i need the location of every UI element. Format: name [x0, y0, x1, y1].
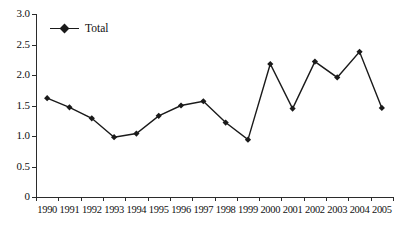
legend-label-total: Total [85, 22, 108, 34]
data-point-marker [44, 95, 50, 101]
series-line-total [47, 52, 382, 140]
x-axis-tick-label: 2005 [367, 203, 397, 216]
data-point-marker [267, 61, 273, 67]
data-point-marker [379, 105, 385, 111]
line-chart: 3.02.52.01.51.00.50 19901991199219931994… [0, 0, 402, 229]
series-marker-group-total [44, 49, 385, 143]
diamond-marker-icon [60, 23, 70, 33]
chart-legend: Total [50, 21, 108, 35]
data-point-marker [178, 102, 184, 108]
legend-marker-icon [50, 23, 79, 33]
data-point-marker [66, 104, 72, 110]
x-axis-label-group: 1990199119921993199419951996199719981999… [36, 203, 393, 221]
data-point-marker [289, 105, 295, 111]
